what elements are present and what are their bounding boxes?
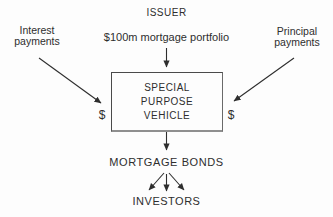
spv-label: SPECIAL PURPOSE VEHICLE xyxy=(141,81,193,123)
arrow-bonds-to-investors-left xyxy=(149,173,164,190)
arrow-interest-to-spv xyxy=(39,58,101,103)
investors-label: INVESTORS xyxy=(0,195,333,207)
spv-box: SPECIAL PURPOSE VEHICLE xyxy=(111,72,223,132)
arrow-principal-to-spv xyxy=(234,58,294,101)
arrow-bonds-to-investors-right xyxy=(169,173,184,190)
interest-payments-label: Interest payments xyxy=(6,25,68,47)
securitization-diagram: ISSUER $100m mortgage portfolio Interest… xyxy=(0,0,333,217)
dollar-sign-right: $ xyxy=(224,108,238,122)
dollar-sign-left: $ xyxy=(95,108,109,122)
issuer-label: ISSUER xyxy=(0,7,333,18)
mortgage-bonds-label: MORTGAGE BONDS xyxy=(0,156,333,168)
principal-payments-label: Principal payments xyxy=(266,26,328,48)
